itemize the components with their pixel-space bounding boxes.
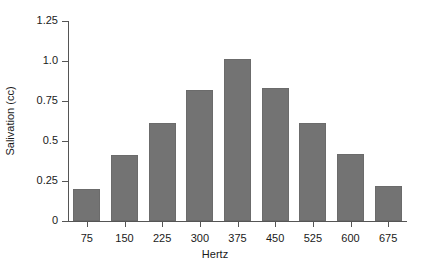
bar-525hz — [299, 123, 326, 221]
y-axis-tick-mark — [62, 221, 68, 222]
bar-450hz — [262, 88, 289, 221]
x-axis-tick-mark — [275, 221, 276, 227]
y-axis-title-container: Salivation (cc) — [0, 21, 20, 221]
x-axis-tick-mark — [125, 221, 126, 227]
y-axis-tick-mark — [62, 21, 68, 22]
y-axis-tick-mark — [62, 61, 68, 62]
y-axis-tick-mark — [62, 141, 68, 142]
bar-375hz — [224, 59, 251, 221]
x-axis-tick-mark — [351, 221, 352, 227]
x-axis-tick-mark — [238, 221, 239, 227]
bar-300hz — [186, 90, 213, 221]
y-axis-line — [68, 21, 69, 222]
y-axis-tick-mark — [62, 101, 68, 102]
bar-600hz — [337, 154, 364, 221]
x-axis-title: Hertz — [0, 248, 430, 261]
bar-150hz — [111, 155, 138, 221]
y-axis-title: Salivation (cc) — [4, 86, 17, 155]
bar-225hz — [149, 123, 176, 221]
y-axis-tick-label: 0 — [52, 214, 58, 227]
x-axis-tick-mark — [388, 221, 389, 227]
y-axis-tick-label: 0.75 — [37, 94, 58, 107]
bar-75hz — [73, 189, 100, 221]
y-axis-tick-mark — [62, 181, 68, 182]
x-axis-tick-mark — [200, 221, 201, 227]
x-axis-tick-mark — [87, 221, 88, 227]
bar-chart-figure: Salivation (cc) 00.250.50.751.01.25 7515… — [0, 0, 430, 270]
bar-675hz — [375, 186, 402, 221]
x-axis-tick-mark — [313, 221, 314, 227]
y-axis-tick-label: 1.0 — [43, 54, 58, 67]
y-axis-tick-label: 0.5 — [43, 134, 58, 147]
x-axis-tick-label: 675 — [363, 232, 413, 245]
y-axis-tick-label: 1.25 — [37, 14, 58, 27]
y-axis-tick-label: 0.25 — [37, 174, 58, 187]
x-axis-tick-mark — [162, 221, 163, 227]
